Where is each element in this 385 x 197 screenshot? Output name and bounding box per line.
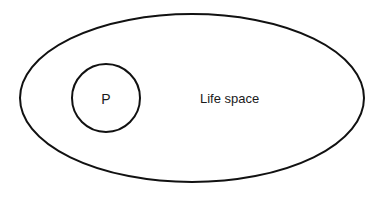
life-space-diagram: P Life space (0, 0, 385, 197)
person-label: P (101, 91, 110, 107)
life-space-label: Life space (200, 91, 259, 106)
